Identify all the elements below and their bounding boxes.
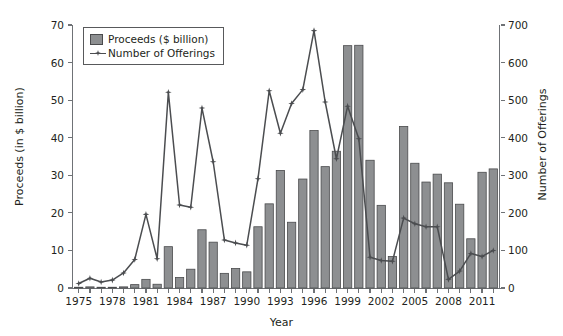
bar-2011: [478, 172, 486, 288]
bar-swatch-icon: [90, 34, 103, 45]
bar-1979: [119, 287, 127, 288]
bar-1985: [187, 269, 195, 288]
bar-1990: [243, 272, 251, 288]
legend-label-proceeds: Proceeds ($ billion): [108, 33, 208, 45]
bar-2002: [377, 205, 385, 288]
bar-1996: [310, 131, 318, 288]
bar-1994: [287, 222, 295, 288]
offerings-marker-1975: [75, 280, 82, 287]
offerings-marker-1991: [255, 175, 262, 182]
offerings-marker-1977: [98, 279, 105, 286]
bar-2009: [456, 204, 464, 288]
offerings-line: [79, 31, 494, 284]
offerings-marker-1990: [243, 242, 250, 249]
legend-item-offerings: Number of Offerings: [90, 46, 215, 60]
offerings-marker-1987: [210, 158, 217, 165]
bar-1975: [75, 287, 83, 288]
bar-1989: [231, 268, 239, 288]
bar-1993: [276, 170, 284, 288]
offerings-marker-1983: [165, 89, 172, 96]
legend-item-proceeds: Proceeds ($ billion): [90, 32, 215, 46]
bar-1976: [86, 287, 94, 288]
bar-2012: [489, 169, 497, 288]
offerings-marker-1982: [154, 255, 161, 262]
offerings-marker-1988: [221, 237, 228, 244]
bar-1998: [332, 151, 340, 288]
bar-1978: [108, 287, 116, 288]
bar-1980: [131, 285, 139, 288]
offerings-marker-1984: [176, 202, 183, 209]
line-marker-icon: [90, 49, 106, 58]
offerings-marker-1993: [277, 130, 284, 137]
bar-1992: [265, 204, 273, 288]
bar-1991: [254, 227, 262, 288]
offerings-marker-1992: [266, 87, 273, 94]
bar-1987: [209, 242, 217, 288]
offerings-marker-1981: [143, 211, 150, 218]
bar-1983: [164, 247, 172, 288]
bar-1988: [220, 273, 228, 288]
bars-group: [75, 45, 498, 288]
bar-2008: [444, 183, 452, 288]
bar-1997: [321, 167, 329, 288]
ipo-proceeds-offerings-chart: Proceeds (in $ billion) Number of Offeri…: [0, 0, 563, 336]
bar-2006: [422, 182, 430, 288]
offerings-marker-1997: [322, 99, 329, 106]
bar-1984: [175, 277, 183, 288]
bar-1977: [97, 287, 105, 288]
bar-1986: [198, 230, 206, 288]
bar-1982: [153, 284, 161, 288]
bar-2007: [433, 174, 441, 288]
bar-1995: [299, 179, 307, 288]
bar-1981: [142, 279, 150, 288]
bar-2010: [467, 239, 475, 288]
offerings-marker-1976: [87, 275, 94, 282]
offerings-marker-1996: [311, 27, 318, 34]
legend-label-offerings: Number of Offerings: [108, 47, 215, 59]
offerings-marker-1986: [199, 105, 206, 112]
bar-1999: [343, 46, 351, 288]
bar-2004: [400, 126, 408, 288]
offerings-marker-1985: [187, 204, 194, 211]
chart-legend: Proceeds ($ billion) Number of Offerings: [83, 27, 224, 65]
offerings-marker-1989: [232, 240, 239, 247]
